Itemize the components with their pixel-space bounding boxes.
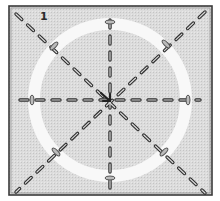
tick-left xyxy=(30,95,34,105)
tick-right xyxy=(186,95,190,105)
crease-pattern-diagram: 1 xyxy=(0,0,220,201)
step-number-label: 1 xyxy=(40,10,48,23)
tick-top xyxy=(105,20,115,24)
tick-bottom xyxy=(105,176,115,180)
